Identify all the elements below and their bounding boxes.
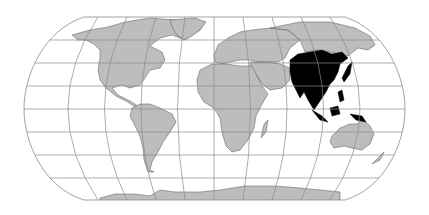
- new-guinea: [350, 114, 366, 122]
- australia: [330, 118, 374, 150]
- asia-mainland: [290, 50, 348, 110]
- philippines: [338, 90, 344, 102]
- europe: [214, 28, 300, 64]
- greenland: [170, 18, 206, 40]
- africa: [197, 64, 268, 152]
- map-canvas: [0, 0, 429, 215]
- antarctica: [100, 186, 340, 205]
- new-zealand: [372, 152, 384, 164]
- graticule-parallels: [0, 40, 429, 178]
- south-america: [130, 104, 176, 172]
- indonesia-sumatra: [312, 110, 328, 122]
- world-map: Asia: [0, 0, 429, 215]
- japan: [342, 62, 352, 82]
- madagascar: [261, 120, 268, 138]
- indonesia-borneo: [330, 106, 340, 116]
